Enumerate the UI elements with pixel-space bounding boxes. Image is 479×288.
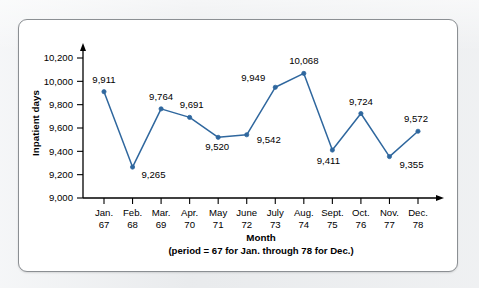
figure-root: 9,0009,2009,4009,6009,80010,00010,200 9,… (0, 0, 479, 288)
line-chart: 9,0009,2009,4009,6009,80010,00010,200 9,… (19, 20, 459, 273)
data-point-label: 9,411 (317, 155, 340, 166)
data-point-marker[interactable] (273, 85, 277, 89)
data-point-label: 10,068 (289, 55, 318, 66)
data-point-marker[interactable] (245, 133, 249, 137)
x-tick-label-period: 74 (298, 219, 309, 230)
data-point-marker[interactable] (330, 148, 334, 152)
y-tick-label: 9,400 (49, 146, 73, 157)
y-tick-label: 10,000 (44, 76, 73, 87)
x-tick-label-period: 67 (99, 219, 110, 230)
y-tick-label: 9,200 (49, 169, 73, 180)
data-point-label: 9,724 (349, 96, 374, 107)
x-tick-label-period: 77 (384, 219, 395, 230)
chart-panel: 9,0009,2009,4009,6009,80010,00010,200 9,… (18, 19, 458, 272)
data-point-marker[interactable] (188, 115, 192, 119)
x-tick-label-group: Jan.67Feb.68Mar.69Apr.70May71June72July7… (95, 207, 428, 230)
data-point-marker[interactable] (359, 111, 363, 115)
y-tick-label: 9,000 (49, 192, 73, 203)
x-tick-label-period: 78 (413, 219, 424, 230)
x-tick-label-month: Sept. (321, 207, 343, 218)
x-tick-label-month: Aug. (294, 207, 314, 218)
x-tick-label-period: 70 (184, 219, 195, 230)
x-tick-label-period: 71 (213, 219, 224, 230)
x-tick-label-month: Dec. (408, 207, 428, 218)
data-point-label: 9,764 (149, 91, 174, 102)
y-axis-arrow-icon (80, 43, 86, 51)
data-point-marker[interactable] (102, 90, 106, 94)
data-point-marker[interactable] (416, 129, 420, 133)
x-tick-label-period: 76 (356, 219, 367, 230)
x-tick-label-month: Oct. (352, 207, 370, 218)
x-tick-label-period: 73 (270, 219, 281, 230)
y-tick-group: 9,0009,2009,4009,6009,80010,00010,200 (44, 52, 83, 203)
data-point-label: 9,911 (92, 74, 115, 85)
data-point-marker[interactable] (130, 165, 134, 169)
data-point-label: 9,572 (404, 113, 428, 124)
x-tick-label-month: Nov. (380, 207, 399, 218)
data-point-label: 9,949 (241, 72, 265, 83)
data-point-label: 9,265 (142, 169, 166, 180)
x-tick-group (104, 198, 418, 204)
data-line (104, 73, 418, 167)
x-axis-title: Month (246, 232, 275, 243)
y-axis-title: Inpatient days (30, 90, 41, 156)
x-axis-arrow-icon (436, 195, 444, 201)
x-tick-label-month: June (236, 207, 257, 218)
x-tick-label-period: 75 (327, 219, 338, 230)
data-point-label: 9,691 (180, 99, 204, 110)
x-tick-label-period: 72 (241, 219, 252, 230)
y-tick-label: 9,800 (49, 99, 73, 110)
data-point-label: 9,355 (399, 159, 423, 170)
x-tick-label-month: Feb. (123, 207, 142, 218)
x-tick-label-month: July (267, 207, 284, 218)
data-point-marker[interactable] (302, 71, 306, 75)
series-group (102, 71, 420, 169)
x-tick-label-month: Apr. (181, 207, 198, 218)
x-axis-subtitle: (period = 67 for Jan. through 78 for Dec… (168, 245, 353, 256)
data-point-marker[interactable] (159, 107, 163, 111)
data-point-label: 9,520 (205, 141, 229, 152)
data-point-label: 9,542 (257, 134, 281, 145)
x-tick-label-period: 69 (156, 219, 167, 230)
data-point-marker[interactable] (216, 135, 220, 139)
x-tick-label-month: May (209, 207, 227, 218)
y-tick-label: 10,200 (44, 52, 73, 63)
x-tick-label-period: 68 (127, 219, 138, 230)
x-tick-label-month: Mar. (152, 207, 171, 218)
point-label-group: 9,9119,2659,7649,6919,5209,5429,94910,06… (92, 55, 428, 180)
data-point-marker[interactable] (387, 154, 391, 158)
x-tick-label-month: Jan. (95, 207, 113, 218)
y-tick-label: 9,600 (49, 122, 73, 133)
